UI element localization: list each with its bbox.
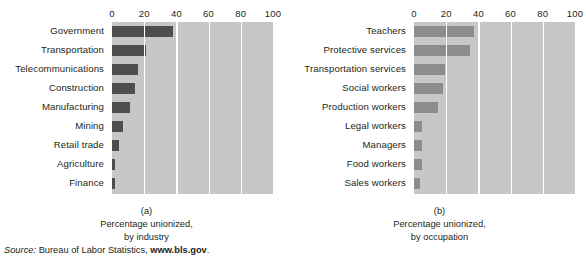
- figure-two-bar-charts: 020406080100 GovernmentTransportationTel…: [0, 0, 586, 264]
- panel-label-a: (a): [0, 205, 293, 218]
- category-label: Retail trade: [54, 139, 104, 150]
- bar: [414, 140, 422, 151]
- x-tick-label: 40: [164, 8, 188, 20]
- category-label: Production workers: [322, 101, 406, 112]
- x-tick-label: 60: [499, 8, 523, 20]
- caption-a-line1: Percentage unionized,: [0, 218, 293, 231]
- bar: [112, 159, 115, 170]
- bar: [414, 159, 422, 170]
- caption-b: (b) Percentage unionized, by occupation: [293, 205, 586, 244]
- caption-a-line2: by industry: [0, 231, 293, 244]
- category-label: Transportation: [41, 44, 104, 55]
- bar: [414, 178, 420, 189]
- category-label: Food workers: [347, 158, 406, 169]
- x-axis-ticks-a: 020406080100: [0, 8, 293, 22]
- bar-series-a: [112, 22, 273, 194]
- x-tick-label: 80: [531, 8, 555, 20]
- category-label: Telecommunications: [15, 63, 104, 74]
- category-label: Government: [50, 25, 104, 36]
- bar: [112, 45, 146, 56]
- gridline: [241, 22, 242, 194]
- gridline: [543, 22, 544, 194]
- bar: [112, 64, 138, 75]
- category-label: Manufacturing: [42, 101, 104, 112]
- category-label: Agriculture: [57, 158, 104, 169]
- bar: [112, 178, 115, 189]
- gridline: [176, 22, 177, 194]
- category-label: Sales workers: [344, 177, 406, 188]
- source-text: Bureau of Labor Statistics,: [36, 245, 150, 255]
- bar: [414, 121, 422, 132]
- category-label: Mining: [75, 120, 104, 131]
- x-tick-label: 100: [261, 8, 285, 20]
- x-tick-label: 100: [563, 8, 586, 20]
- panel-label-b: (b): [293, 205, 586, 218]
- category-label: Transportation services: [304, 63, 406, 74]
- category-labels-b: TeachersProtective servicesTransportatio…: [293, 22, 410, 194]
- caption-b-line2: by occupation: [293, 231, 586, 244]
- x-tick-label: 0: [100, 8, 124, 20]
- caption-a: (a) Percentage unionized, by industry: [0, 205, 293, 244]
- category-label: Protective services: [324, 44, 406, 55]
- caption-b-line1: Percentage unionized,: [293, 218, 586, 231]
- x-tick-label: 20: [434, 8, 458, 20]
- x-tick-label: 60: [197, 8, 221, 20]
- bar: [112, 140, 119, 151]
- bar: [414, 64, 445, 75]
- source-period: .: [207, 245, 210, 255]
- source-url[interactable]: www.bls.gov: [150, 245, 206, 255]
- x-tick-label: 20: [132, 8, 156, 20]
- x-axis-ticks-b: 020406080100: [293, 8, 586, 22]
- bar: [414, 102, 438, 113]
- category-label: Legal workers: [345, 120, 406, 131]
- gridline: [446, 22, 447, 194]
- category-label: Finance: [69, 177, 104, 188]
- bar: [112, 121, 123, 132]
- category-label: Managers: [363, 139, 406, 150]
- bar: [112, 26, 173, 37]
- bar: [414, 83, 443, 94]
- gridline: [511, 22, 512, 194]
- category-label: Social workers: [342, 82, 406, 93]
- bar: [112, 83, 135, 94]
- x-tick-label: 40: [466, 8, 490, 20]
- source-note: Source: Bureau of Labor Statistics, www.…: [4, 244, 209, 256]
- gridline: [209, 22, 210, 194]
- category-label: Construction: [49, 82, 104, 93]
- bar: [112, 102, 130, 113]
- gridline: [144, 22, 145, 194]
- category-label: Teachers: [366, 25, 406, 36]
- bar-series-b: [414, 22, 575, 194]
- bar: [414, 45, 470, 56]
- bar: [414, 26, 474, 37]
- category-labels-a: GovernmentTransportationTelecommunicatio…: [0, 22, 108, 194]
- plot-area-a: [112, 22, 273, 194]
- source-label: Source:: [4, 245, 36, 255]
- plot-area-b: [414, 22, 575, 194]
- x-tick-label: 80: [229, 8, 253, 20]
- x-tick-label: 0: [402, 8, 426, 20]
- gridline: [478, 22, 479, 194]
